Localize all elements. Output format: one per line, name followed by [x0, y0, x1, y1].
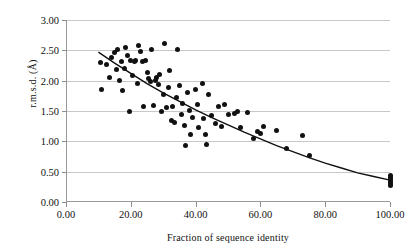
- data-point: [127, 109, 132, 114]
- x-axis-tick-label: 60.00: [249, 209, 273, 220]
- x-axis-tick: [260, 202, 261, 207]
- data-point: [261, 124, 266, 129]
- x-axis-title: Fraction of sequence identity: [66, 232, 390, 243]
- x-axis-tick-label: 20.00: [119, 209, 143, 220]
- data-point: [235, 109, 240, 114]
- data-point: [388, 173, 393, 178]
- x-axis-tick-label: 40.00: [184, 209, 208, 220]
- x-axis-tick-label: 80.00: [313, 209, 337, 220]
- data-point: [258, 131, 263, 136]
- y-axis-tick-label: 2.50: [41, 45, 59, 56]
- data-point: [99, 87, 104, 92]
- data-point: [174, 95, 179, 100]
- data-point: [203, 132, 208, 137]
- x-axis-tick: [390, 202, 391, 207]
- data-point: [200, 81, 205, 86]
- data-point: [119, 59, 124, 64]
- x-axis-tick-label: 0.00: [57, 209, 75, 220]
- trendline-path: [98, 52, 390, 180]
- y-axis-tick-label: 0.00: [41, 197, 59, 208]
- y-axis-title: r.m.s.d. (Å): [27, 19, 38, 149]
- data-point: [117, 78, 122, 83]
- data-point: [98, 60, 103, 65]
- chart-figure: r.m.s.d. (Å) Fraction of sequence identi…: [0, 0, 405, 252]
- y-axis-tick-label: 0.50: [41, 166, 59, 177]
- data-point: [213, 121, 218, 126]
- data-point: [177, 83, 182, 88]
- plot-area: 0.000.501.001.502.002.503.00 0.0020.0040…: [66, 20, 390, 202]
- data-point: [109, 55, 114, 60]
- data-point: [114, 67, 119, 72]
- data-point: [130, 73, 135, 78]
- data-point: [143, 58, 148, 63]
- y-axis-tick-label: 2.00: [41, 75, 59, 86]
- data-point: [161, 92, 166, 97]
- data-point: [284, 146, 289, 151]
- data-point: [245, 110, 250, 115]
- data-point: [307, 153, 312, 158]
- data-point: [151, 103, 156, 108]
- x-axis-tick: [325, 202, 326, 207]
- y-axis-tick-label: 3.00: [41, 15, 59, 26]
- data-point: [187, 108, 192, 113]
- data-point: [300, 133, 305, 138]
- data-point: [145, 70, 150, 75]
- data-point: [179, 112, 184, 117]
- data-point: [180, 101, 185, 106]
- x-axis-tick-label: 100.00: [376, 209, 405, 220]
- data-point: [182, 123, 187, 128]
- x-axis-tick: [131, 202, 132, 207]
- data-point: [115, 47, 120, 52]
- data-point: [219, 124, 224, 129]
- data-point: [122, 66, 127, 71]
- data-point: [388, 183, 393, 188]
- data-point: [104, 62, 109, 67]
- data-point: [274, 128, 279, 133]
- data-point: [135, 81, 140, 86]
- data-point: [190, 115, 195, 120]
- y-axis-tick-label: 1.00: [41, 136, 59, 147]
- data-point: [226, 112, 231, 117]
- x-axis-tick: [66, 202, 67, 207]
- data-point: [148, 79, 153, 84]
- x-axis-tick: [196, 202, 197, 207]
- y-axis-tick-label: 1.50: [41, 106, 59, 117]
